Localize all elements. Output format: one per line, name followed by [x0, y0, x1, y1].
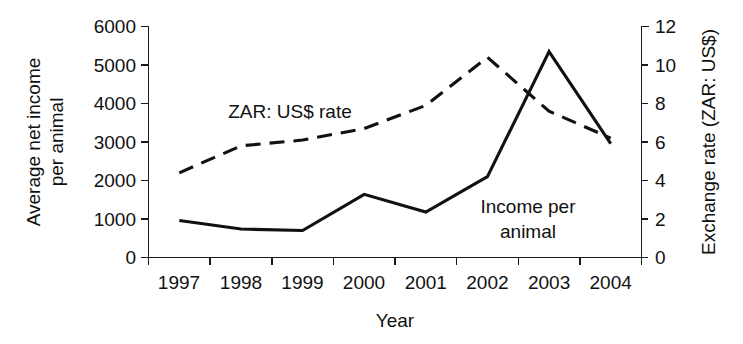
right-axis-tick-labels: 0 2 4 6 8 10 12 [655, 16, 676, 268]
right-tick-label-12: 12 [655, 16, 676, 37]
left-axis-tick-labels: 0 1000 2000 3000 4000 5000 6000 [94, 16, 136, 268]
x-axis-tick-labels: 1997 1998 1999 2000 2001 2002 2003 2004 [158, 272, 632, 293]
annotation-income-per-animal-line2: animal [500, 221, 556, 242]
x-tick-label-2003: 2003 [528, 272, 570, 293]
chart-figure: 0 1000 2000 3000 4000 5000 6000 0 2 4 6 … [0, 0, 743, 344]
right-tick-label-2: 2 [655, 209, 666, 230]
x-tick-label-1997: 1997 [158, 272, 200, 293]
left-axis-ticks [141, 27, 148, 258]
right-tick-label-10: 10 [655, 55, 676, 76]
left-tick-label-3000: 3000 [94, 132, 136, 153]
left-axis-title-line1: Average net income [23, 58, 44, 227]
right-axis-title: Exchange rate (ZAR: US$) [698, 29, 719, 255]
left-tick-label-0: 0 [125, 247, 136, 268]
right-tick-label-4: 4 [655, 170, 666, 191]
x-tick-label-2004: 2004 [590, 272, 633, 293]
right-tick-label-8: 8 [655, 93, 666, 114]
chart-canvas: 0 1000 2000 3000 4000 5000 6000 0 2 4 6 … [0, 0, 743, 344]
left-tick-label-2000: 2000 [94, 170, 136, 191]
x-tick-label-1999: 1999 [281, 272, 323, 293]
x-axis-title: Year [376, 310, 415, 331]
left-tick-label-1000: 1000 [94, 209, 136, 230]
annotation-income-per-animal-line1: Income per [480, 196, 576, 217]
right-tick-label-6: 6 [655, 132, 666, 153]
x-tick-label-1998: 1998 [220, 272, 262, 293]
series-annotations: ZAR: US$ rate Income per animal [228, 101, 576, 242]
axis-frame [142, 27, 649, 258]
x-tick-label-2002: 2002 [466, 272, 508, 293]
left-tick-label-6000: 6000 [94, 16, 136, 37]
x-tick-label-2000: 2000 [343, 272, 385, 293]
x-axis-ticks [149, 258, 642, 266]
left-tick-label-5000: 5000 [94, 55, 136, 76]
left-tick-label-4000: 4000 [94, 93, 136, 114]
left-axis-title-line2: per animal [46, 98, 67, 187]
right-tick-label-0: 0 [655, 247, 666, 268]
x-tick-label-2001: 2001 [405, 272, 447, 293]
annotation-zar-usd-rate: ZAR: US$ rate [228, 101, 352, 122]
